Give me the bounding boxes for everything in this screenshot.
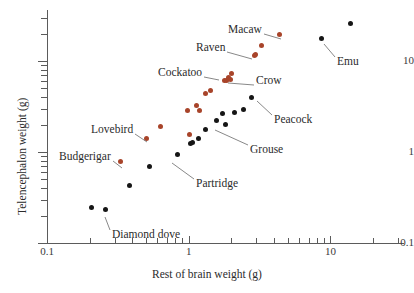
data-point: [228, 77, 233, 82]
leader-line: [215, 130, 248, 145]
data-point: [197, 108, 202, 113]
leader-line: [172, 163, 194, 179]
data-point: [249, 95, 254, 100]
data-point: [259, 43, 264, 48]
y-tick-minor: [41, 200, 47, 201]
leader-line: [204, 77, 219, 80]
scatter-chart: 0.11100.1110 MacawRavenCockatooCrowEmuPe…: [0, 0, 414, 293]
data-point: [277, 32, 282, 37]
x-tick-minor: [373, 238, 374, 243]
data-point: [89, 205, 94, 210]
x-tick-minor: [256, 238, 257, 243]
y-tick-minor: [41, 81, 47, 82]
leader-line: [228, 83, 254, 85]
data-point: [348, 21, 353, 26]
data-point: [144, 136, 149, 141]
data-point: [147, 164, 152, 169]
x-tick-major: [47, 236, 48, 243]
annotation-label: Budgerigar: [59, 150, 111, 162]
y-tick-label: 0.1: [378, 237, 414, 248]
annotation-label: Emu: [337, 55, 359, 67]
x-tick-minor: [299, 238, 300, 243]
data-point: [241, 107, 246, 112]
data-point: [208, 88, 213, 93]
y-tick-minor: [41, 172, 47, 173]
data-point: [127, 183, 132, 188]
y-axis-line: [47, 10, 48, 244]
y-tick-minor: [41, 216, 47, 217]
y-tick-minor: [41, 97, 47, 98]
annotation-label: Macaw: [228, 23, 262, 35]
annotation-label: Cockatoo: [158, 66, 202, 78]
y-tick-minor: [41, 88, 47, 89]
x-tick-label: 1: [186, 246, 192, 257]
x-tick-minor: [274, 238, 275, 243]
y-tick-major: [38, 243, 47, 244]
leader-line: [227, 52, 252, 59]
y-tick-minor: [41, 34, 47, 35]
annotation-label: Raven: [196, 41, 225, 53]
y-tick-major: [38, 152, 47, 153]
data-point: [223, 122, 228, 127]
x-tick-minor: [182, 238, 183, 243]
x-tick-minor: [90, 238, 91, 243]
y-tick-minor: [41, 18, 47, 19]
annotation-label: Lovebird: [91, 123, 133, 135]
data-point: [187, 132, 192, 137]
annotation-label: Partridge: [196, 177, 238, 189]
x-tick-minor: [324, 238, 325, 243]
data-point: [232, 110, 237, 115]
data-point: [229, 71, 234, 76]
data-point: [220, 111, 225, 116]
data-point: [203, 127, 208, 132]
annotation-label: Grouse: [250, 143, 283, 155]
x-tick-minor: [309, 238, 310, 243]
data-point: [118, 159, 123, 164]
x-axis-line: [47, 243, 404, 244]
y-tick-minor: [41, 125, 47, 126]
y-tick-minor: [41, 65, 47, 66]
x-axis-title: Rest of brain weight (g): [0, 268, 414, 280]
data-point: [103, 207, 108, 212]
x-tick-minor: [317, 238, 318, 243]
y-axis-title: Telencephalon weight (g): [16, 98, 28, 215]
data-point: [196, 136, 201, 141]
data-point: [175, 152, 180, 157]
x-tick-major: [189, 236, 190, 243]
y-tick-minor: [41, 179, 47, 180]
leader-line: [105, 217, 110, 230]
y-tick-label: 10: [378, 55, 414, 66]
y-tick-label: 1: [378, 146, 414, 157]
data-point: [190, 140, 195, 145]
x-tick-label: 0.1: [40, 246, 54, 257]
x-tick-minor: [288, 238, 289, 243]
leader-line: [324, 44, 335, 57]
y-tick-minor: [41, 75, 47, 76]
data-point: [158, 124, 163, 129]
y-tick-minor: [41, 156, 47, 157]
annotation-label: Diamond dove: [112, 228, 180, 240]
y-tick-major: [38, 61, 47, 62]
y-tick-minor: [41, 188, 47, 189]
annotation-label: Crow: [256, 74, 282, 86]
data-point: [203, 91, 208, 96]
y-tick-minor: [41, 70, 47, 71]
data-point: [214, 118, 219, 123]
annotation-label: Peacock: [274, 113, 312, 125]
y-tick-minor: [41, 166, 47, 167]
y-tick-minor: [41, 109, 47, 110]
data-point: [253, 52, 258, 57]
x-tick-label: 10: [325, 246, 336, 257]
data-point: [185, 108, 190, 113]
data-point: [319, 36, 324, 41]
leader-line: [257, 101, 272, 115]
y-tick-minor: [41, 161, 47, 162]
x-tick-minor: [231, 238, 232, 243]
x-tick-major: [330, 236, 331, 243]
